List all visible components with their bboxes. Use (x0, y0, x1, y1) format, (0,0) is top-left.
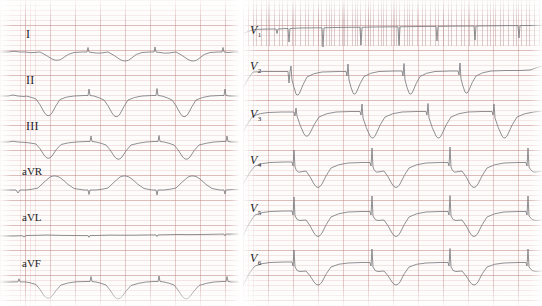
lead-label-V1-sub: 1 (258, 31, 262, 39)
lead-label-V2-sub: 2 (258, 67, 262, 75)
lead-label-aVR: aVR (22, 166, 42, 177)
trace-lead-V1 (243, 25, 542, 47)
lead-label-I: I (26, 28, 30, 40)
lead-label-V4-sub: 4 (258, 161, 262, 169)
trace-lead-aVF (0, 276, 239, 299)
chest-trace-group (243, 0, 542, 306)
lead-label-III: III (26, 120, 39, 132)
ecg-image: I II III aVR aVL aVF V1 V2 V3 V4 V5 V6 (0, 0, 542, 306)
lead-label-II: II (26, 74, 35, 86)
trace-lead-V4 (243, 147, 542, 188)
lead-label-V4: V4 (250, 154, 261, 166)
trace-lead-V3 (243, 104, 542, 139)
lead-label-V5: V5 (250, 202, 261, 214)
lead-label-V3: V3 (250, 108, 261, 120)
lead-label-V2: V2 (250, 60, 261, 72)
lead-label-V5-sub: 5 (258, 209, 262, 217)
lead-label-aVF: aVF (22, 258, 41, 269)
paper-wash-chest (243, 0, 542, 306)
lead-label-V3-sub: 3 (258, 115, 262, 123)
ecg-grid-bold-chest (243, 0, 542, 306)
trace-lead-aVR (0, 176, 239, 195)
lead-label-V5-letter: V (250, 201, 257, 215)
lead-label-V6-letter: V (250, 251, 257, 265)
lead-label-V4-letter: V (250, 153, 257, 167)
trace-lead-V5 (243, 196, 542, 237)
lead-label-V6-sub: 6 (258, 259, 262, 267)
trace-lead-V2 (243, 63, 542, 95)
trace-lead-V6 (243, 249, 542, 287)
chest-leads-panel (243, 0, 542, 306)
lead-label-V2-letter: V (250, 59, 257, 73)
ecg-grid-small-chest (243, 0, 542, 306)
trace-lead-aVL (0, 234, 239, 237)
lead-label-V1: V1 (250, 24, 261, 36)
lead-label-V3-letter: V (250, 107, 257, 121)
trace-lead-III (0, 136, 239, 160)
lead-label-V1-letter: V (250, 23, 257, 37)
lead-label-aVL: aVL (22, 212, 42, 223)
trace-lead-I (0, 47, 239, 61)
ecg-grid-dense-band (243, 0, 542, 46)
trace-lead-II (0, 89, 239, 117)
lead-label-V6: V6 (250, 252, 261, 264)
